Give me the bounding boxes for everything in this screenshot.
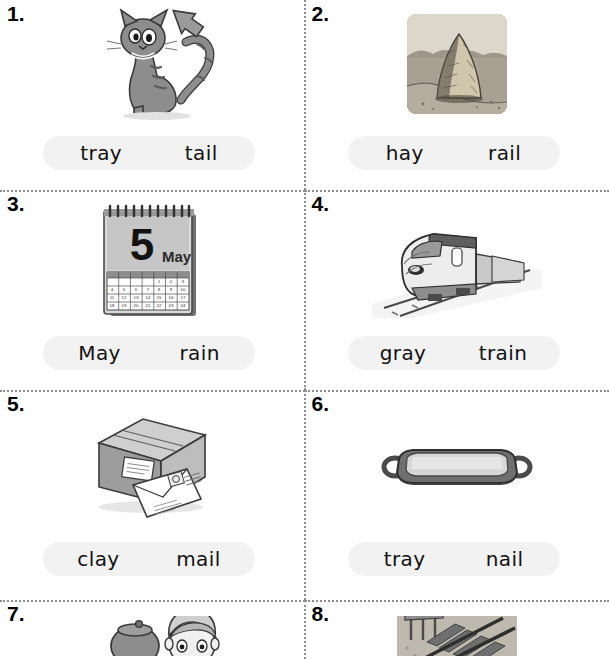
calendar-month: May bbox=[162, 248, 192, 265]
svg-text:22: 22 bbox=[157, 303, 162, 308]
worksheet-item-8[interactable]: 8. bbox=[305, 600, 609, 659]
svg-text:18: 18 bbox=[110, 303, 115, 308]
item-illustration-parcel bbox=[0, 400, 305, 530]
boy-with-pot-icon bbox=[77, 616, 227, 656]
items-grid: 1. bbox=[0, 0, 609, 659]
worksheet-item-5[interactable]: 5. bbox=[0, 390, 305, 600]
item-illustration-train bbox=[305, 198, 609, 328]
svg-text:14: 14 bbox=[146, 295, 151, 300]
railway-track-icon bbox=[397, 616, 517, 656]
choice-word[interactable]: tray bbox=[80, 141, 122, 165]
svg-text:24: 24 bbox=[181, 303, 186, 308]
item-illustration-haystack bbox=[305, 4, 609, 124]
svg-text:15: 15 bbox=[157, 295, 162, 300]
choice-word[interactable]: tray bbox=[384, 547, 426, 571]
haystack-icon bbox=[407, 14, 507, 114]
worksheet-item-2[interactable]: 2. bbox=[305, 0, 609, 190]
worksheet-item-4[interactable]: 4. bbox=[305, 190, 609, 390]
worksheet-item-1[interactable]: 1. bbox=[0, 0, 305, 190]
answer-choices[interactable]: hay rail bbox=[348, 136, 560, 170]
choice-word[interactable]: nail bbox=[486, 547, 524, 571]
answer-choices[interactable]: tray tail bbox=[43, 136, 255, 170]
svg-text:23: 23 bbox=[169, 303, 174, 308]
choice-word[interactable]: gray bbox=[380, 341, 427, 365]
svg-text:12: 12 bbox=[122, 295, 127, 300]
calendar-icon: 5 May bbox=[98, 204, 206, 322]
choice-word[interactable]: mail bbox=[176, 547, 220, 571]
calendar-day: 5 bbox=[130, 220, 154, 269]
choice-word[interactable]: hay bbox=[386, 141, 424, 165]
item-illustration-railway-track bbox=[305, 616, 609, 656]
svg-text:19: 19 bbox=[122, 303, 127, 308]
serving-tray-icon bbox=[377, 425, 537, 505]
answer-choices[interactable]: May rain bbox=[43, 336, 255, 370]
svg-text:10: 10 bbox=[181, 287, 186, 292]
item-illustration-boy-with-pot bbox=[0, 616, 305, 656]
choice-word[interactable]: rain bbox=[179, 341, 219, 365]
item-illustration-cat bbox=[0, 4, 305, 124]
cat-icon bbox=[77, 4, 227, 124]
answer-choices[interactable]: tray nail bbox=[348, 542, 560, 576]
spiral-binding-icon bbox=[104, 206, 194, 216]
choice-word[interactable]: tail bbox=[185, 141, 218, 165]
parcel-box-icon bbox=[77, 403, 227, 528]
answer-choices[interactable]: clay mail bbox=[43, 542, 255, 576]
worksheet-item-7[interactable]: 7. bbox=[0, 600, 305, 659]
svg-text:13: 13 bbox=[134, 295, 139, 300]
svg-text:17: 17 bbox=[181, 295, 186, 300]
choice-word[interactable]: May bbox=[78, 341, 121, 365]
svg-text:11: 11 bbox=[110, 295, 115, 300]
worksheet-item-6[interactable]: 6. tray nail bbox=[305, 390, 609, 600]
choice-word[interactable]: rail bbox=[488, 141, 521, 165]
worksheet-item-3[interactable]: 3. 5 May bbox=[0, 190, 305, 390]
item-illustration-calendar: 5 May bbox=[0, 198, 305, 328]
svg-text:21: 21 bbox=[146, 303, 151, 308]
worksheet-page: 1. bbox=[0, 0, 609, 659]
item-illustration-tray bbox=[305, 400, 609, 530]
choice-word[interactable]: clay bbox=[77, 547, 119, 571]
svg-text:20: 20 bbox=[134, 303, 139, 308]
train-icon bbox=[372, 208, 542, 318]
choice-word[interactable]: train bbox=[479, 341, 528, 365]
answer-choices[interactable]: gray train bbox=[348, 336, 560, 370]
svg-text:16: 16 bbox=[169, 295, 174, 300]
